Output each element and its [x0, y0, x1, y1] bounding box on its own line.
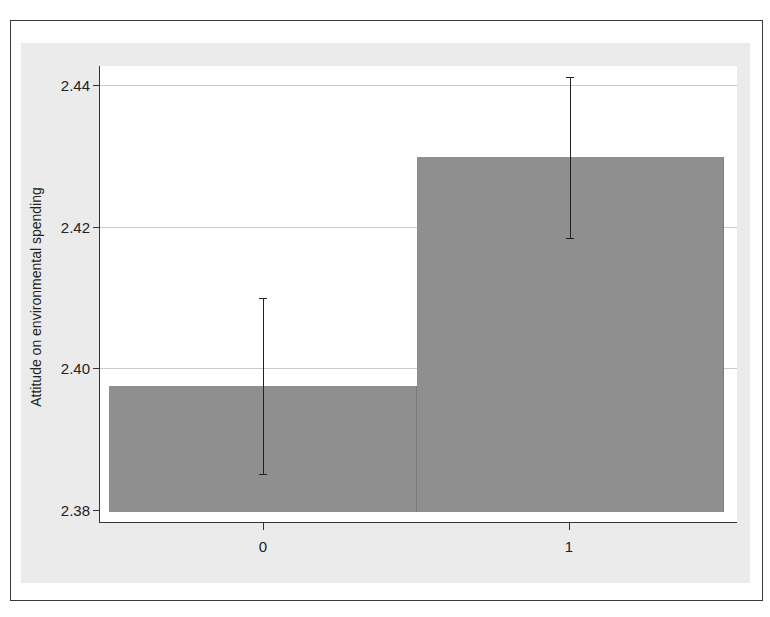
x-axis — [99, 522, 737, 523]
ytick-mark — [93, 85, 99, 86]
ytick-label: 2.42 — [10, 219, 90, 236]
gridline-2-44 — [99, 85, 737, 86]
error-cap-top-0 — [259, 298, 267, 299]
error-cap-top-1 — [566, 77, 574, 78]
ytick-label: 2.38 — [10, 502, 90, 519]
ytick-mark — [93, 368, 99, 369]
ytick-label: 2.44 — [10, 77, 90, 94]
xtick-label: 1 — [549, 538, 589, 555]
ytick-label: 2.40 — [10, 360, 90, 377]
error-cap-bottom-1 — [566, 238, 574, 239]
xtick-label: 0 — [243, 538, 283, 555]
ytick-mark — [93, 227, 99, 228]
xtick-mark — [263, 522, 264, 530]
ytick-mark — [93, 510, 99, 511]
error-bar-0 — [263, 298, 264, 474]
error-cap-bottom-0 — [259, 474, 267, 475]
y-axis — [99, 66, 100, 522]
error-bar-1 — [570, 77, 571, 238]
xtick-mark — [569, 522, 570, 530]
y-axis-title: Attitude on environmental spending — [28, 187, 44, 406]
